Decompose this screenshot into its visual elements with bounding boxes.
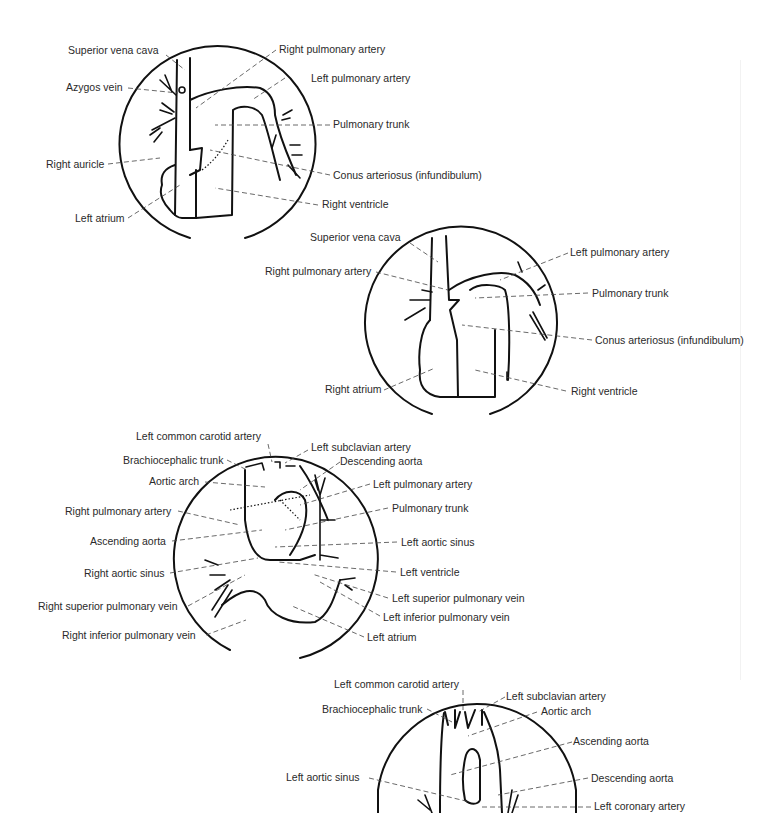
fig3-dotted-lines [230, 495, 310, 520]
fig3-label-left-atrium: Left atrium [367, 631, 417, 643]
fig4-label-descending-aorta: Descending aorta [591, 772, 673, 784]
fig3-label-pulmonary-trunk: Pulmonary trunk [392, 502, 469, 514]
fig3-circle [174, 457, 378, 658]
fig2-leaders [376, 243, 592, 391]
fig4-label-ascending-aorta: Ascending aorta [573, 735, 649, 747]
fig3-label-left-superior-pulmonary-vein: Left superior pulmonary vein [392, 592, 525, 604]
fig2-right-atrium [419, 300, 459, 397]
fig2-label-conus-arteriosus: Conus arteriosus (infundibulum) [595, 334, 744, 346]
fig3-label-left-ventricle: Left ventricle [400, 566, 460, 578]
fig4-circle [378, 704, 576, 813]
fig3-label-ascending-aorta: Ascending aorta [90, 535, 166, 547]
fig3-label-right-aortic-sinus: Right aortic sinus [84, 567, 165, 579]
fig1-circle [120, 46, 316, 238]
fig3-right-veins [205, 560, 232, 617]
anatomy-figure-canvas: Superior vena cava Right pulmonary arter… [0, 0, 758, 813]
fig3-left-branches [315, 475, 355, 590]
fig3-label-left-pulmonary-artery: Left pulmonary artery [373, 478, 473, 490]
fig1-pulmonary-artery-arch [190, 87, 296, 175]
fig1-label-conus-arteriosus: Conus arteriosus (infundibulum) [333, 169, 482, 181]
fig2-label-superior-vena-cava: Superior vena cava [310, 231, 401, 243]
fig3-label-left-aortic-sinus: Left aortic sinus [401, 536, 475, 548]
fig3-label-brachiocephalic-trunk: Brachiocephalic trunk [123, 454, 224, 466]
fig1-vein-branches [150, 75, 176, 142]
fig1-label-left-pulmonary-artery: Left pulmonary artery [311, 72, 411, 84]
fig3-arch-branches [246, 462, 295, 470]
fig2-right-ventricle [458, 330, 495, 397]
fig4-label-left-coronary-artery: Left coronary artery [594, 800, 686, 812]
fig1-superior-vena-cava [175, 58, 190, 215]
fig3-label-right-pulmonary-artery: Right pulmonary artery [65, 505, 172, 517]
fig1-label-pulmonary-trunk: Pulmonary trunk [333, 118, 410, 130]
fig2-superior-vena-cava [430, 236, 449, 320]
figure-1-heart-anterior [120, 46, 316, 238]
fig2-label-right-pulmonary-artery: Right pulmonary artery [265, 265, 372, 277]
figure-3-heart-posterior [174, 457, 378, 658]
fig1-label-right-pulmonary-artery: Right pulmonary artery [279, 43, 386, 55]
fig3-label-descending-aorta: Descending aorta [340, 455, 422, 467]
fig2-label-right-atrium: Right atrium [325, 383, 382, 395]
fig3-left-atrium [222, 580, 340, 623]
fig3-label-left-subclavian-artery: Left subclavian artery [311, 441, 412, 453]
fig1-conus-dotted [202, 140, 228, 170]
fig2-label-left-pulmonary-artery: Left pulmonary artery [570, 246, 670, 258]
fig4-label-left-subclavian-artery: Left subclavian artery [506, 690, 607, 702]
fig1-leaders [108, 50, 330, 218]
figure-4-aorta [378, 704, 576, 813]
fig4-aorta [440, 712, 502, 813]
fig1-label-superior-vena-cava: Superior vena cava [68, 44, 159, 56]
fig3-label-left-common-carotid-artery: Left common carotid artery [136, 430, 262, 442]
fig4-label-left-common-carotid-artery: Left common carotid artery [334, 678, 460, 690]
fig3-label-right-superior-pulmonary-vein: Right superior pulmonary vein [38, 600, 178, 612]
fig4-label-brachiocephalic-trunk: Brachiocephalic trunk [322, 703, 423, 715]
fig1-label-left-atrium: Left atrium [75, 212, 125, 224]
fig2-label-pulmonary-trunk: Pulmonary trunk [592, 287, 669, 299]
fig1-label-right-auricle: Right auricle [46, 158, 105, 170]
fig4-label-left-aortic-sinus: Left aortic sinus [286, 771, 360, 783]
fig4-label-aortic-arch: Aortic arch [541, 705, 591, 717]
fig4-arch-vessels [445, 710, 482, 728]
fig3-leaders [170, 444, 397, 637]
fig1-label-right-ventricle: Right ventricle [322, 198, 389, 210]
fig1-label-azygos-vein: Azygos vein [66, 81, 123, 93]
fig2-vessel-branches [405, 262, 547, 380]
fig3-label-aortic-arch: Aortic arch [149, 475, 199, 487]
fig1-azygos-vein [179, 87, 185, 93]
fig3-label-left-inferior-pulmonary-vein: Left inferior pulmonary vein [383, 611, 510, 623]
fig2-label-right-ventricle: Right ventricle [571, 385, 638, 397]
fig1-pulmonary-trunk [196, 107, 280, 218]
fig3-label-right-inferior-pulmonary-vein: Right inferior pulmonary vein [62, 629, 196, 641]
